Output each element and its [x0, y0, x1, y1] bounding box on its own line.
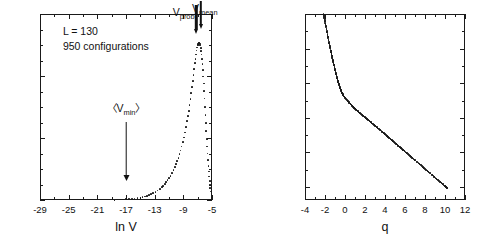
- tick-mark: [355, 14, 356, 17]
- tick-mark: [126, 14, 127, 19]
- tick-mark: [207, 76, 212, 77]
- tick-mark: [460, 83, 465, 84]
- x-tick-label: -9: [179, 205, 187, 215]
- data-point: [171, 172, 173, 174]
- tick-mark: [209, 30, 212, 31]
- tick-mark: [462, 31, 465, 32]
- tick-mark: [375, 14, 376, 17]
- data-point: [175, 163, 177, 165]
- data-point: [200, 47, 202, 49]
- x-tick-label: -17: [119, 205, 133, 215]
- tick-mark: [335, 197, 336, 200]
- arrow-v-min: [122, 122, 131, 182]
- tick-mark: [445, 195, 446, 200]
- tick-mark: [425, 195, 426, 200]
- tick-mark: [305, 195, 306, 200]
- data-point: [190, 92, 192, 94]
- tick-mark: [40, 45, 43, 46]
- tick-mark: [465, 195, 466, 200]
- tick-mark: [305, 170, 308, 171]
- tick-mark: [40, 154, 43, 155]
- data-point: [176, 160, 178, 162]
- x-tick-label: 4: [382, 205, 387, 215]
- data-point: [164, 183, 166, 185]
- arrow-shaft: [125, 122, 127, 176]
- tick-mark: [209, 107, 212, 108]
- data-point: [194, 62, 196, 64]
- data-point: [128, 198, 130, 200]
- tick-mark: [460, 152, 465, 153]
- tick-mark: [385, 14, 386, 19]
- tick-mark: [405, 14, 406, 19]
- tick-mark: [212, 195, 213, 200]
- tick-mark: [305, 66, 308, 67]
- tick-mark: [305, 31, 308, 32]
- data-point: [204, 106, 206, 108]
- tick-mark: [40, 138, 45, 139]
- v-min-subscript: min: [124, 108, 136, 117]
- data-point: [188, 110, 190, 112]
- tick-mark: [40, 61, 43, 62]
- tick-mark: [305, 152, 310, 153]
- x-tick-label: -29: [33, 205, 47, 215]
- tick-mark: [40, 30, 43, 31]
- data-point: [193, 68, 195, 70]
- data-point: [125, 198, 127, 200]
- data-point: [174, 166, 176, 168]
- data-point: [131, 198, 133, 200]
- tick-mark: [345, 14, 346, 19]
- data-point: [185, 126, 187, 128]
- tick-mark: [460, 187, 465, 188]
- x-tick-label: 2: [362, 205, 367, 215]
- tick-mark: [405, 195, 406, 200]
- tick-mark: [415, 14, 416, 17]
- data-point: [203, 83, 205, 85]
- tick-mark: [445, 14, 446, 19]
- tick-mark: [140, 14, 141, 17]
- tick-mark: [54, 14, 55, 17]
- data-point: [186, 120, 188, 122]
- data-point: [161, 186, 163, 188]
- data-point: [192, 80, 194, 82]
- tick-mark: [345, 195, 346, 200]
- tick-mark: [209, 45, 212, 46]
- x-tick-label: -5: [208, 205, 216, 215]
- tick-mark: [54, 197, 55, 200]
- tick-mark: [69, 14, 70, 19]
- tick-mark: [305, 14, 310, 15]
- x-tick-label: -4: [301, 205, 309, 215]
- data-point: [187, 115, 189, 117]
- tick-mark: [40, 107, 43, 108]
- tick-mark: [83, 197, 84, 200]
- tick-mark: [385, 195, 386, 200]
- data-point: [159, 188, 161, 190]
- left-note-configurations: 950 configurations: [63, 40, 149, 52]
- tick-mark: [209, 169, 212, 170]
- tick-mark: [395, 197, 396, 200]
- tick-mark: [415, 197, 416, 200]
- tick-mark: [183, 195, 184, 200]
- tick-mark: [207, 200, 212, 201]
- data-point: [152, 192, 154, 194]
- tick-mark: [305, 187, 310, 188]
- data-point: [203, 90, 205, 92]
- data-point: [195, 54, 197, 56]
- tick-mark: [40, 169, 43, 170]
- annotation-v-min: 〈Vmin〉: [107, 100, 146, 117]
- tick-mark: [305, 49, 310, 50]
- left-x-axis-label: ln V: [115, 220, 137, 234]
- data-point: [201, 58, 203, 60]
- tick-mark: [169, 14, 170, 17]
- tick-mark: [462, 101, 465, 102]
- data-point: [168, 177, 170, 179]
- data-point: [182, 141, 184, 143]
- tick-mark: [462, 66, 465, 67]
- tick-mark: [40, 200, 45, 201]
- tick-mark: [112, 14, 113, 17]
- data-point: [209, 187, 211, 189]
- tick-mark: [209, 92, 212, 93]
- tick-mark: [325, 14, 326, 19]
- x-tick-label: 10: [440, 205, 451, 215]
- data-point: [207, 159, 209, 161]
- tick-mark: [315, 197, 316, 200]
